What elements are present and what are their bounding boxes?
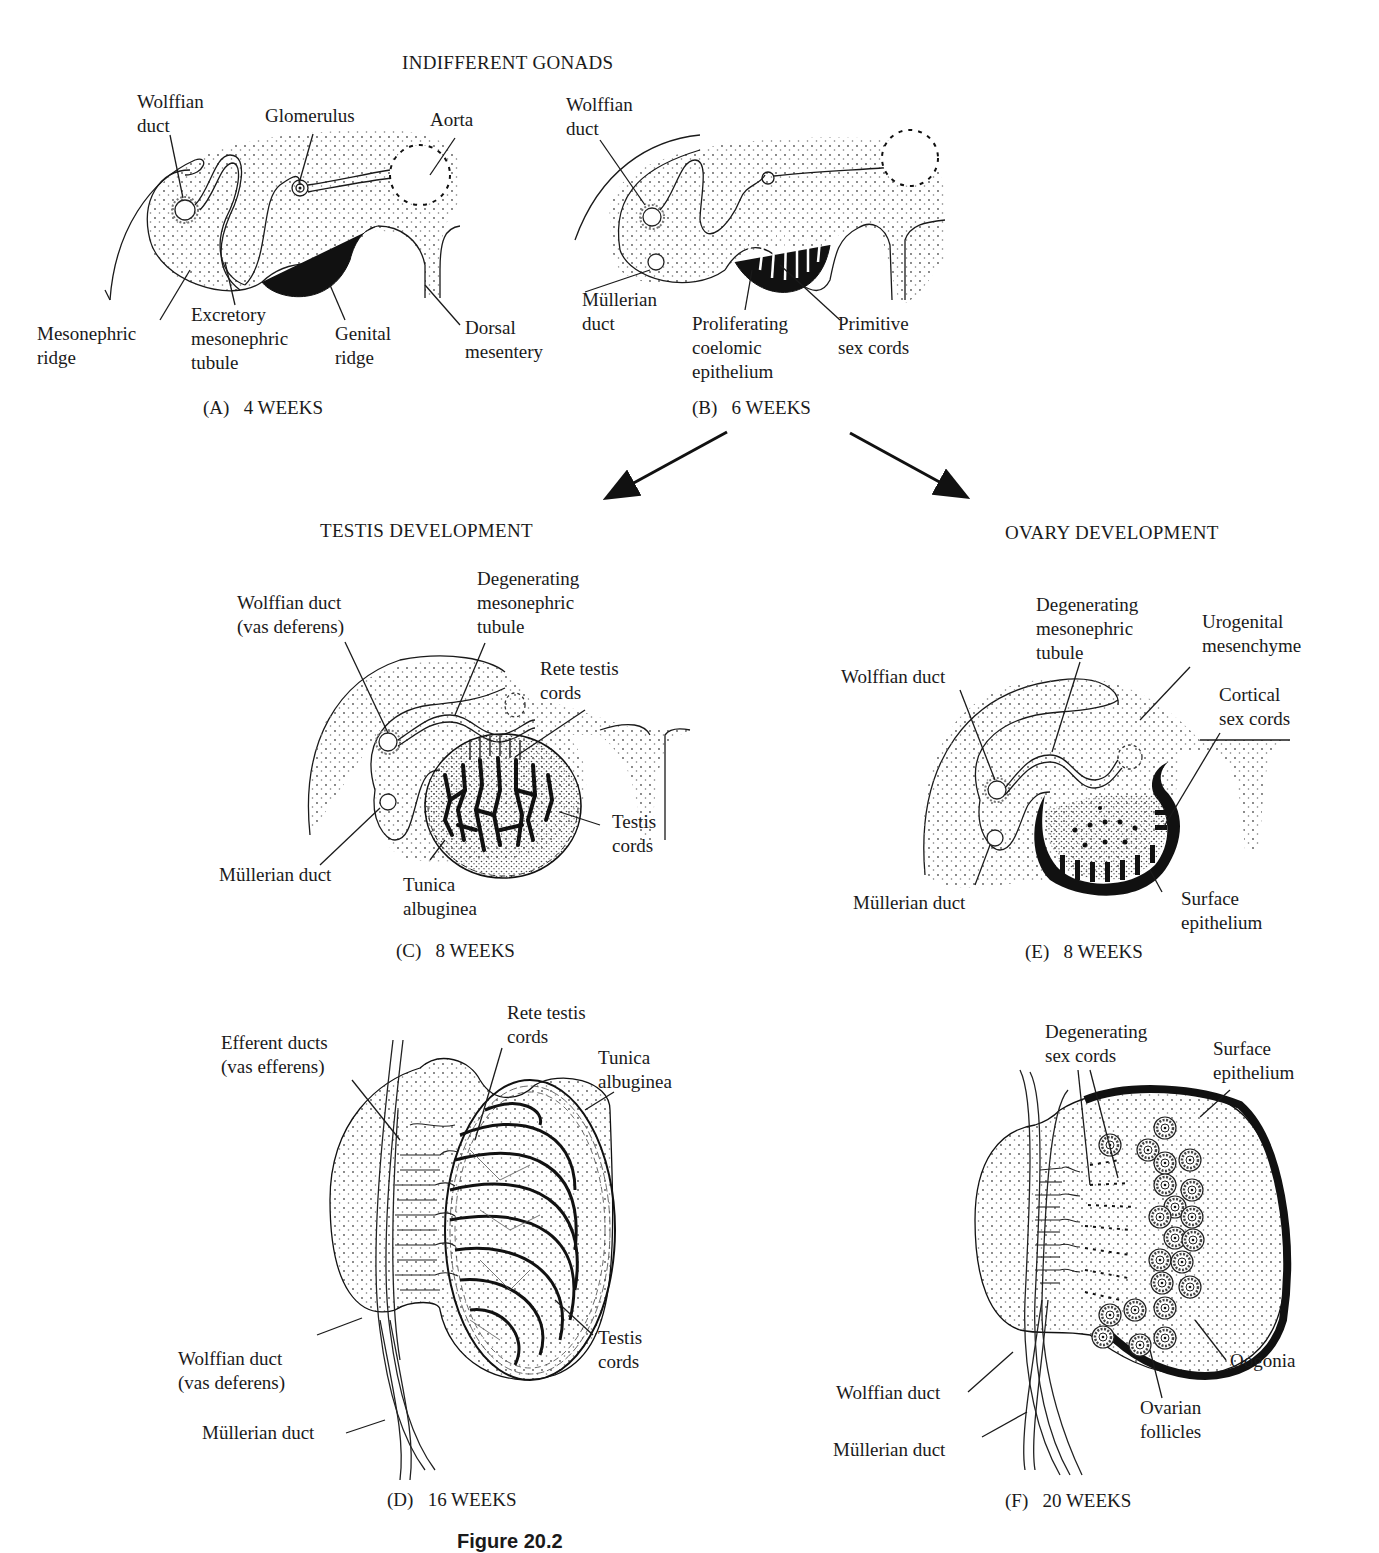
label-excretory-mesonephric-tubule: Excretory mesonephric tubule (191, 303, 288, 375)
label-mullerian-duct: Müllerian duct (202, 1421, 314, 1445)
label-mesonephric-ridge: Mesonephric ridge (37, 322, 136, 370)
caption-panel-f: (F) 20 WEEKS (1005, 1490, 1131, 1512)
label-aorta: Aorta (430, 108, 473, 132)
label-wolffian-duct: Wolffian duct (566, 93, 633, 141)
label-testis-cords: Testis cords (612, 810, 656, 858)
label-degenerating-mesonephric-tubule: Degenerating mesonephric tubule (477, 567, 579, 639)
caption-panel-a: (A) 4 WEEKS (203, 397, 323, 419)
label-tunica-albuginea: Tunica albuginea (598, 1046, 672, 1094)
label-efferent-ducts: Efferent ducts (vas efferens) (221, 1031, 328, 1079)
panel-a-drawing (105, 130, 460, 300)
label-rete-testis-cords: Rete testis cords (540, 657, 619, 705)
caption-panel-d: (D) 16 WEEKS (387, 1489, 516, 1511)
label-ovarian-follicles: Ovarian follicles (1140, 1396, 1201, 1444)
label-wolffian-duct-vas-deferens: Wolffian duct (vas deferens) (237, 591, 344, 639)
label-wolffian-duct: Wolffian duct (137, 90, 204, 138)
label-genital-ridge: Genital ridge (335, 322, 391, 370)
caption-panel-c: (C) 8 WEEKS (396, 940, 515, 962)
header-ovary-development: OVARY DEVELOPMENT (1005, 522, 1219, 544)
label-surface-epithelium: Surface epithelium (1213, 1037, 1294, 1085)
label-urogenital-mesenchyme: Urogenital mesenchyme (1202, 610, 1301, 658)
label-wolffian-duct: Wolffian duct (836, 1381, 940, 1405)
label-wolffian-duct-vas-deferens: Wolffian duct (vas deferens) (178, 1347, 285, 1395)
label-mullerian-duct: Müllerian duct (853, 891, 965, 915)
label-wolffian-duct: Wolffian duct (841, 665, 945, 689)
label-oogonia: Oogonia (1230, 1349, 1295, 1373)
label-rete-testis-cords: Rete testis cords (507, 1001, 586, 1049)
label-cortical-sex-cords: Cortical sex cords (1219, 683, 1290, 731)
label-degenerating-sex-cords: Degenerating sex cords (1045, 1020, 1147, 1068)
header-testis-development: TESTIS DEVELOPMENT (320, 520, 533, 542)
label-dorsal-mesentery: Dorsal mesentery (465, 316, 543, 364)
label-mullerian-duct: Müllerian duct (833, 1438, 945, 1462)
label-glomerulus: Glomerulus (265, 104, 355, 128)
caption-panel-b: (B) 6 WEEKS (692, 397, 811, 419)
label-tunica-albuginea: Tunica albuginea (403, 873, 477, 921)
caption-panel-e: (E) 8 WEEKS (1025, 941, 1143, 963)
label-mullerian-duct: Müllerian duct (219, 863, 331, 887)
label-mullerian-duct: Müllerian duct (582, 288, 657, 336)
label-proliferating-coelomic-epithelium: Proliferating coelomic epithelium (692, 312, 788, 384)
panel-b-drawing (575, 130, 945, 305)
branch-arrows (608, 432, 965, 497)
label-testis-cords: Testis cords (598, 1326, 642, 1374)
header-indifferent-gonads: INDIFFERENT GONADS (402, 52, 613, 74)
figure-caption: Figure 20.2 (457, 1530, 563, 1553)
label-surface-epithelium: Surface epithelium (1181, 887, 1262, 935)
label-degenerating-mesonephric-tubule: Degenerating mesonephric tubule (1036, 593, 1138, 665)
label-primitive-sex-cords: Primitive sex cords (838, 312, 909, 360)
